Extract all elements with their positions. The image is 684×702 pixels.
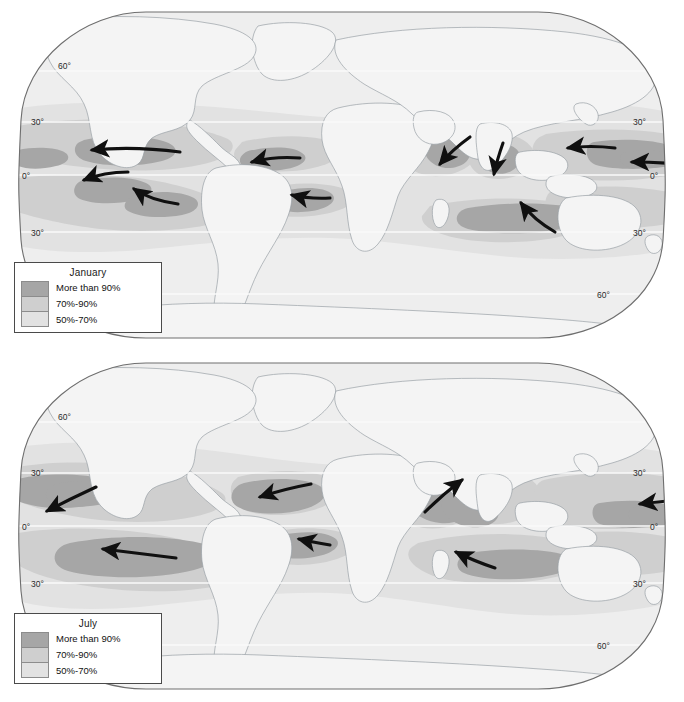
legend-label-70-90-january: 70%-90% bbox=[56, 297, 120, 311]
legend-label-70-90-july: 70%-90% bbox=[56, 648, 120, 662]
lat-label-left-30n-july: 30° bbox=[31, 468, 44, 478]
lat-label-right-30n-january: 30° bbox=[633, 117, 646, 127]
map-panel-january: 60° 30° 0° 30° 30° 0° 30° 60° January bbox=[0, 0, 684, 351]
lat-label-right-60-july: 60° bbox=[597, 641, 610, 651]
legend-swatches-january bbox=[21, 281, 49, 327]
legend-rows-july: More than 90% 70%-90% 50%-70% bbox=[21, 632, 155, 678]
legend-label-50-70-july: 50%-70% bbox=[56, 664, 120, 678]
lat-label-right-30s-january: 30° bbox=[633, 228, 646, 238]
lat-label-right-0-july: 0° bbox=[650, 522, 658, 532]
lat-label-right-30n-july: 30° bbox=[633, 468, 646, 478]
lat-label-left-30s-january: 30° bbox=[31, 228, 44, 238]
legend-swatch-50-70-january bbox=[22, 312, 48, 326]
legend-labels-january: More than 90% 70%-90% 50%-70% bbox=[56, 281, 120, 327]
legend-swatch-70-90-january bbox=[22, 297, 48, 312]
figure-root: 60° 30° 0° 30° 30° 0° 30° 60° January bbox=[0, 0, 684, 702]
legend-swatch-more-than-90-january bbox=[22, 282, 48, 297]
legend-label-more-than-90-january: More than 90% bbox=[56, 281, 120, 295]
legend-swatches-july bbox=[21, 632, 49, 678]
legend-swatch-70-90-july bbox=[22, 648, 48, 663]
legend-rows-january: More than 90% 70%-90% 50%-70% bbox=[21, 281, 155, 327]
legend-january: January More than 90% 70%-90% 50%-70% bbox=[14, 262, 162, 333]
lat-label-left-60-july: 60° bbox=[58, 412, 71, 422]
lat-label-left-0-january: 0° bbox=[22, 171, 30, 181]
legend-label-more-than-90-july: More than 90% bbox=[56, 632, 120, 646]
legend-label-50-70-january: 50%-70% bbox=[56, 313, 120, 327]
map-panel-july: 60° 30° 0° 30° 30° 0° 30° 60° July Mo bbox=[0, 351, 684, 702]
legend-title-january: January bbox=[21, 267, 155, 278]
lat-label-left-30s-july: 30° bbox=[31, 579, 44, 589]
lat-label-left-30n-january: 30° bbox=[31, 117, 44, 127]
arrow-west-pacific-northeast-trade bbox=[568, 147, 615, 149]
lat-label-left-60-january: 60° bbox=[58, 61, 71, 71]
legend-title-july: July bbox=[21, 618, 155, 629]
lat-label-right-60-january: 60° bbox=[597, 290, 610, 300]
legend-swatch-more-than-90-july bbox=[22, 633, 48, 648]
legend-swatch-50-70-july bbox=[22, 663, 48, 677]
legend-labels-july: More than 90% 70%-90% 50%-70% bbox=[56, 632, 120, 678]
lat-label-right-30s-july: 30° bbox=[633, 579, 646, 589]
legend-july: July More than 90% 70%-90% 50%-70% bbox=[14, 613, 162, 684]
lat-label-left-0-july: 0° bbox=[22, 522, 30, 532]
lat-label-right-0-january: 0° bbox=[650, 171, 658, 181]
